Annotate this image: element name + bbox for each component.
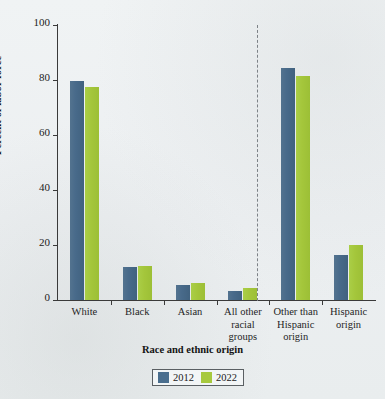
category-label-line: Other than — [269, 306, 322, 319]
category-label-line: All other — [217, 306, 270, 319]
category-label-hispanic-origin: Hispanicorigin — [322, 306, 375, 331]
bar-group — [228, 25, 257, 300]
legend-item-2022: 2022 — [201, 372, 237, 383]
bar-group — [70, 25, 99, 300]
y-tick-label: 40 — [39, 182, 50, 193]
bar-2022-hispanic-origin — [349, 245, 363, 300]
category-label-other-than-hispanic-origin: Other thanHispanicorigin — [269, 306, 322, 344]
y-tick-label: 80 — [39, 72, 50, 83]
category-label-line: origin — [322, 319, 375, 332]
category-label-line: racial — [217, 319, 270, 332]
category-label-asian: Asian — [164, 306, 217, 319]
bar-2012-other-than-hispanic-origin — [281, 68, 295, 300]
section-divider — [257, 25, 258, 301]
category-label-line: Hispanic — [269, 319, 322, 332]
chart-figure: Percent of labor force 020406080100 Whit… — [0, 0, 385, 399]
y-tick-mark — [53, 80, 58, 81]
y-tick-label: 0 — [45, 292, 51, 303]
x-axis-title: Race and ethnic origin — [0, 344, 385, 355]
category-label-all-other-racial-groups: All otherracialgroups — [217, 306, 270, 344]
bar-2022-asian — [191, 283, 205, 300]
y-tick-label: 60 — [39, 127, 50, 138]
legend-swatch-2022 — [201, 372, 212, 383]
chart-legend: 20122022 — [152, 369, 244, 386]
bar-2012-asian — [176, 285, 190, 300]
bar-2022-white — [85, 87, 99, 300]
bar-group — [281, 25, 310, 300]
category-label-white: White — [58, 306, 111, 319]
y-tick-mark — [53, 25, 58, 26]
y-tick-mark — [53, 245, 58, 246]
x-tick-mark — [164, 300, 165, 305]
y-tick-mark — [53, 300, 58, 301]
bar-2022-black — [138, 266, 152, 300]
bar-2012-black — [123, 267, 137, 300]
bar-2012-white — [70, 81, 84, 300]
category-label-line: Black — [111, 306, 164, 319]
legend-label: 2012 — [173, 372, 194, 383]
bar-2012-hispanic-origin — [334, 255, 348, 300]
legend-item-2012: 2012 — [158, 372, 194, 383]
y-tick-label: 100 — [34, 17, 51, 28]
category-label-line: Asian — [164, 306, 217, 319]
y-tick-mark — [53, 190, 58, 191]
x-tick-mark — [217, 300, 218, 305]
bar-2022-all-other-racial-groups — [243, 288, 257, 300]
category-label-line: Hispanic — [322, 306, 375, 319]
x-tick-mark — [111, 300, 112, 305]
bar-2012-all-other-racial-groups — [228, 291, 242, 300]
plot-area: 020406080100 — [58, 25, 375, 300]
category-label-line: origin — [269, 331, 322, 344]
bar-group — [334, 25, 363, 300]
bar-group — [176, 25, 205, 300]
bar-2022-other-than-hispanic-origin — [296, 76, 310, 300]
bar-group — [123, 25, 152, 300]
y-tick-mark — [53, 135, 58, 136]
legend-swatch-2012 — [158, 372, 169, 383]
y-axis-title: Percent of labor force — [0, 56, 3, 155]
category-label-black: Black — [111, 306, 164, 319]
category-label-line: groups — [217, 331, 270, 344]
legend-label: 2022 — [216, 372, 237, 383]
x-tick-mark — [322, 300, 323, 305]
category-label-line: White — [58, 306, 111, 319]
x-tick-mark — [269, 300, 270, 305]
y-tick-label: 20 — [39, 237, 50, 248]
